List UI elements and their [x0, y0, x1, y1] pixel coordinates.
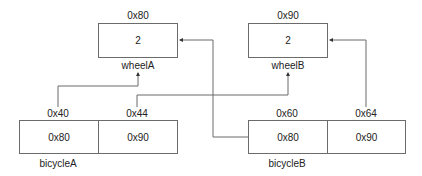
- wheelA-box: 2: [98, 23, 178, 58]
- bicycleB-box: 0x80 0x90: [248, 120, 406, 154]
- wheelB-label: wheelB: [272, 60, 305, 71]
- bicycleA-slot1-value: 0x90: [99, 121, 177, 153]
- bicycleA-slot0-address: 0x40: [47, 108, 69, 119]
- wheelB-box: 2: [248, 23, 328, 58]
- arrow-bicycleA-0x40-to-wheelA: [58, 73, 138, 107]
- bicycleA-label: bicycleA: [39, 158, 76, 169]
- wheelB-address: 0x90: [277, 10, 299, 21]
- bicycleB-slot0-address: 0x60: [276, 108, 298, 119]
- wheelA-address: 0x80: [127, 10, 149, 21]
- bicycleA-slot1-address: 0x44: [126, 108, 148, 119]
- bicycleB-slot0-value: 0x80: [249, 121, 328, 153]
- wheelA-value: 2: [99, 24, 177, 57]
- bicycleB-slot1-address: 0x64: [355, 108, 377, 119]
- bicycleA-box: 0x80 0x90: [19, 120, 178, 154]
- arrow-bicycleB-0x60-to-wheelA: [180, 40, 248, 137]
- bicycleB-label: bicycleB: [268, 158, 305, 169]
- bicycleB-slot1-value: 0x90: [328, 121, 405, 153]
- bicycleA-slot0-value: 0x80: [20, 121, 99, 153]
- wheelB-value: 2: [249, 24, 327, 57]
- arrow-bicycleB-0x64-to-wheelB: [330, 40, 366, 107]
- wheelA-label: wheelA: [122, 60, 155, 71]
